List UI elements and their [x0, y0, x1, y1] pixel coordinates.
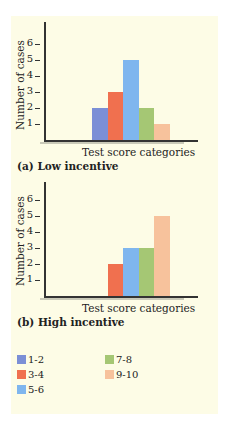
- legend: 1-23-45-67-89-10: [11, 336, 218, 416]
- y-tick-mark: [35, 44, 40, 45]
- y-axis: [44, 182, 46, 297]
- x-axis: [44, 296, 198, 298]
- y-tick-mark: [35, 92, 40, 93]
- legend-label: 3-4: [28, 369, 44, 380]
- bar-5-6: [123, 248, 139, 296]
- bar-9-10: [154, 216, 170, 296]
- chart-high-incentive: 123456Number of casesTest score categori…: [11, 176, 218, 336]
- legend-label: 9-10: [116, 369, 138, 380]
- bar-7-8: [139, 108, 155, 140]
- y-tick-mark: [35, 248, 40, 249]
- x-axis-label: Test score categories: [82, 302, 195, 314]
- y-axis-label: Number of cases: [14, 196, 26, 286]
- y-tick-mark: [35, 60, 40, 61]
- legend-label: 1-2: [28, 354, 44, 365]
- y-tick-mark: [35, 264, 40, 265]
- y-axis-label: Number of cases: [14, 40, 26, 130]
- chart-low-incentive: 123456Number of casesTest score categori…: [11, 16, 218, 176]
- legend-item-3-4: 3-4: [17, 369, 44, 380]
- legend-item-9-10: 9-10: [105, 369, 138, 380]
- legend-swatch: [17, 385, 26, 394]
- y-tick-mark: [35, 280, 40, 281]
- legend-swatch: [17, 355, 26, 364]
- y-tick-mark: [35, 216, 40, 217]
- bar-1-2: [92, 108, 108, 140]
- x-axis: [44, 140, 198, 142]
- bar-9-10: [154, 124, 170, 140]
- y-tick-mark: [35, 200, 40, 201]
- bar-7-8: [139, 248, 155, 296]
- chart-caption: (a) Low incentive: [17, 160, 118, 172]
- x-axis-label: Test score categories: [82, 146, 195, 158]
- y-axis: [44, 22, 46, 141]
- bar-3-4: [108, 264, 124, 296]
- y-tick-mark: [35, 124, 40, 125]
- y-tick-mark: [35, 76, 40, 77]
- figure-panel: 123456Number of casesTest score categori…: [11, 16, 218, 414]
- chart-caption: (b) High incentive: [17, 316, 124, 328]
- legend-label: 7-8: [116, 354, 132, 365]
- legend-swatch: [105, 370, 114, 379]
- y-tick-mark: [35, 108, 40, 109]
- legend-swatch: [105, 355, 114, 364]
- legend-item-7-8: 7-8: [105, 354, 132, 365]
- x-axis-shadow: [40, 298, 184, 300]
- legend-label: 5-6: [28, 384, 44, 395]
- bar-3-4: [108, 92, 124, 140]
- legend-swatch: [17, 370, 26, 379]
- x-axis-shadow: [40, 142, 184, 144]
- legend-item-5-6: 5-6: [17, 384, 44, 395]
- y-tick-mark: [35, 232, 40, 233]
- bar-5-6: [123, 60, 139, 140]
- legend-item-1-2: 1-2: [17, 354, 44, 365]
